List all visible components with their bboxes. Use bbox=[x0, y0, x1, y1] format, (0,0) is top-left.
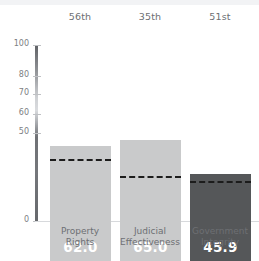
y-tick-label-60: 60 bbox=[19, 108, 29, 117]
y-tick-80: 80 bbox=[0, 76, 41, 77]
y-tick-mark bbox=[33, 133, 41, 134]
category-label-government-integrity: Government Integrity bbox=[181, 226, 259, 248]
category-label-judicial-effectiveness: Judicial Effectiveness bbox=[111, 226, 189, 248]
y-tick-60: 60 bbox=[0, 114, 41, 115]
bar-chart: 56th 35th 51st 100 80 70 60 50 0 bbox=[0, 0, 259, 261]
reference-line-government-integrity bbox=[190, 181, 251, 183]
y-tick-mark bbox=[33, 94, 41, 95]
y-tick-label-0: 0 bbox=[24, 215, 29, 224]
category-label-property-rights: Property Rights bbox=[41, 226, 119, 248]
y-tick-mark bbox=[33, 45, 41, 46]
reference-line-property-rights bbox=[50, 159, 111, 161]
y-tick-50: 50 bbox=[0, 133, 41, 134]
y-tick-mark bbox=[33, 114, 41, 115]
y-tick-label-100: 100 bbox=[14, 39, 29, 48]
category-label-line2: Effectiveness bbox=[111, 237, 189, 248]
y-tick-label-70: 70 bbox=[19, 88, 29, 97]
y-tick-100: 100 bbox=[0, 45, 41, 46]
plot-area: 100 80 70 60 50 0 62.0 bbox=[0, 0, 259, 261]
category-label-line1: Judicial bbox=[111, 226, 189, 237]
category-label-row: Property Rights Judicial Effectiveness G… bbox=[41, 226, 259, 256]
y-tick-70: 70 bbox=[0, 94, 41, 95]
y-tick-mark bbox=[33, 76, 41, 77]
category-label-line2: Integrity bbox=[181, 237, 259, 248]
reference-line-judicial-effectiveness bbox=[120, 176, 181, 178]
category-label-line1: Property bbox=[41, 226, 119, 237]
y-tick-label-50: 50 bbox=[19, 127, 29, 136]
category-label-line2: Rights bbox=[41, 237, 119, 248]
y-tick-label-80: 80 bbox=[19, 70, 29, 79]
category-label-line1: Government bbox=[181, 226, 259, 237]
